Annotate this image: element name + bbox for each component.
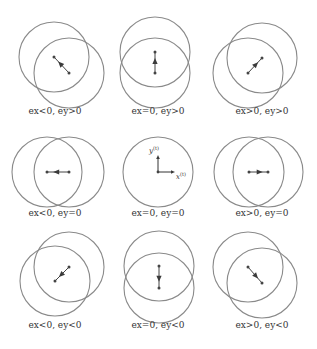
- center-dot-p1: [68, 72, 71, 75]
- error-direction-diagram: ex<0, ey>0 ex=0, ey>0 ex>0, ey>0 ex<0, e…: [0, 0, 317, 349]
- x-axis-label: x(t): [176, 171, 186, 181]
- panel-label-ex-pos-ey-zero: ex>0, ey=0: [235, 208, 288, 218]
- arrowhead-icon: [152, 58, 157, 64]
- center-dot-p7: [68, 266, 71, 269]
- center-dot-p3: [247, 72, 250, 75]
- center-dot-p8: [158, 287, 161, 290]
- center-dot-p6: [248, 171, 251, 174]
- center-dot-p9: [261, 282, 264, 285]
- center-dot-p4: [68, 171, 71, 174]
- panel-label-ex-pos-ey-neg: ex>0, ey<0: [235, 320, 288, 330]
- arrowhead-icon: [156, 276, 161, 282]
- panel-label-ex-zero-ey-neg: ex=0, ey<0: [131, 320, 184, 330]
- panel-label-ex-neg-ey-pos: ex<0, ey>0: [28, 106, 81, 116]
- center-dot-p6: [267, 171, 270, 174]
- y-axis-arrow-icon: [156, 155, 160, 159]
- diagram-canvas: [0, 0, 317, 349]
- panel-label-ex-zero-ey-zero: ex=0, ey=0: [131, 208, 184, 218]
- center-dot-p7: [54, 280, 57, 283]
- center-dot-p2: [154, 72, 157, 75]
- x-axis-arrow-icon: [171, 170, 175, 174]
- center-dot-p9: [247, 266, 250, 269]
- panel-label-ex-neg-ey-neg: ex<0, ey<0: [28, 320, 81, 330]
- panel-label-ex-zero-ey-pos: ex=0, ey>0: [131, 106, 184, 116]
- center-dot-p8: [158, 265, 161, 268]
- y-axis-label: y(t): [149, 145, 159, 155]
- panel-label-ex-pos-ey-pos: ex>0, ey>0: [235, 106, 288, 116]
- panel-label-ex-neg-ey-zero: ex<0, ey=0: [28, 208, 81, 218]
- arrowhead-icon: [257, 169, 263, 174]
- arrowhead-icon: [53, 169, 59, 174]
- origin-dot: [157, 171, 160, 174]
- center-dot-p1: [53, 56, 56, 59]
- center-dot-p4: [46, 171, 49, 174]
- center-dot-p3: [261, 57, 264, 60]
- center-dot-p2: [154, 51, 157, 54]
